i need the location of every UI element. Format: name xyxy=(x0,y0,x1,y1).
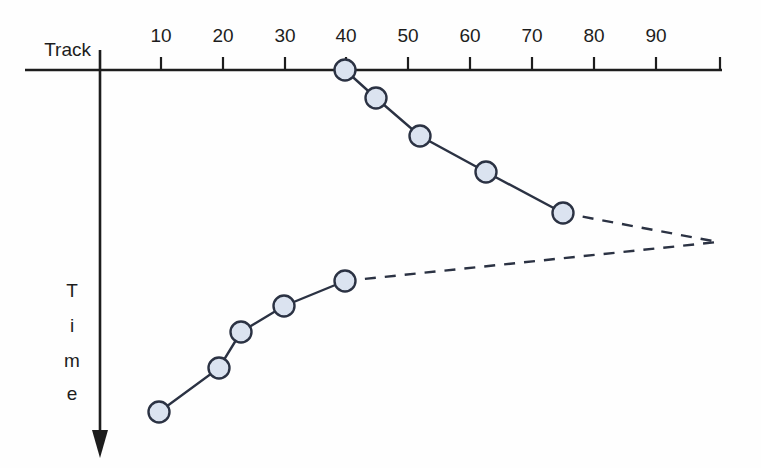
x-axis-ticks xyxy=(161,57,720,70)
disk-scheduling-chart: 10 20 30 40 50 60 70 80 90 Track T i m e xyxy=(0,0,761,468)
y-axis-label-letter-e: e xyxy=(67,383,78,404)
x-tick-label-70: 70 xyxy=(521,25,542,46)
y-axis-label: T i m e xyxy=(64,280,80,404)
x-tick-label-10: 10 xyxy=(150,25,171,46)
lower-series-line xyxy=(159,281,345,412)
chart-canvas: 10 20 30 40 50 60 70 80 90 Track T i m e xyxy=(0,0,761,468)
x-tick-label-20: 20 xyxy=(212,25,233,46)
lower-data-point-5[interactable] xyxy=(335,271,356,292)
series-upper-seek-path xyxy=(335,60,574,224)
upper-dashed-continuation xyxy=(563,213,718,242)
lower-data-point-2[interactable] xyxy=(209,358,230,379)
x-tick-label-90: 90 xyxy=(645,25,666,46)
lower-dashed-continuation xyxy=(345,242,718,281)
y-axis-label-letter-m: m xyxy=(64,350,80,371)
lower-data-point-1[interactable] xyxy=(149,402,170,423)
series-lower-seek-path xyxy=(149,271,356,423)
y-axis-label-letter-T: T xyxy=(66,280,78,301)
dashed-connectors xyxy=(345,213,718,281)
lower-data-point-3[interactable] xyxy=(231,322,252,343)
y-axis-arrowhead xyxy=(92,430,108,458)
x-tick-label-40: 40 xyxy=(335,25,356,46)
y-axis-group: T i m e xyxy=(64,50,108,458)
upper-data-point-2[interactable] xyxy=(366,88,387,109)
upper-data-point-5[interactable] xyxy=(553,203,574,224)
upper-data-point-3[interactable] xyxy=(410,126,431,147)
x-tick-label-80: 80 xyxy=(583,25,604,46)
x-tick-label-60: 60 xyxy=(459,25,480,46)
y-axis-label-letter-i: i xyxy=(70,315,74,336)
upper-data-point-1[interactable] xyxy=(335,60,356,81)
upper-data-point-4[interactable] xyxy=(476,162,497,183)
x-tick-label-50: 50 xyxy=(397,25,418,46)
lower-data-point-4[interactable] xyxy=(274,296,295,317)
x-axis-label: Track xyxy=(44,39,91,60)
x-axis-tick-labels: 10 20 30 40 50 60 70 80 90 xyxy=(150,25,666,46)
x-tick-label-30: 30 xyxy=(274,25,295,46)
x-axis-group: 10 20 30 40 50 60 70 80 90 Track xyxy=(25,25,722,70)
